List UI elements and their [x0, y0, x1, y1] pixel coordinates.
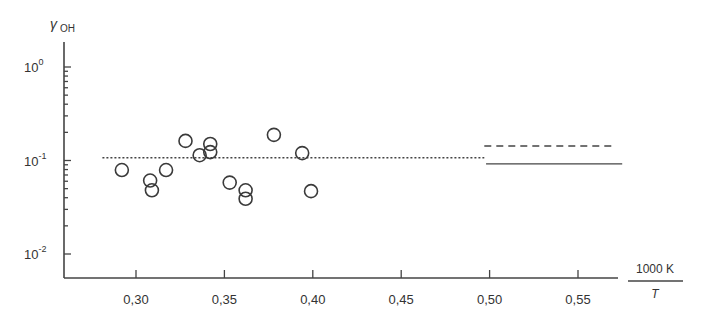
reference-lines — [102, 146, 622, 164]
data-point-circle — [179, 134, 192, 147]
y-tick-exponent: -1 — [38, 151, 46, 161]
data-point-circle — [160, 164, 173, 177]
y-axis-label-main: γ — [50, 16, 58, 32]
x-tick-label: 0,50 — [477, 292, 502, 307]
data-point-circle — [305, 185, 318, 198]
data-point-circle — [296, 147, 309, 160]
data-point-circle — [145, 184, 158, 197]
y-tick-exponent: -2 — [38, 244, 46, 254]
chart-svg: γ OH 10010-110-2 0,300,350,400,450,500,5… — [0, 0, 704, 330]
y-tick-exponent: 0 — [38, 57, 43, 67]
x-tick-label: 0,40 — [300, 292, 325, 307]
data-point-circle — [267, 128, 280, 141]
x-tick-label: 0,55 — [565, 292, 590, 307]
data-point-circle — [223, 176, 236, 189]
x-axis-label-denominator: T — [651, 287, 660, 301]
x-axis-label-numerator: 1000 K — [636, 262, 674, 276]
y-tick-label: 100 — [24, 57, 43, 75]
chart-container: γ OH 10010-110-2 0,300,350,400,450,500,5… — [0, 0, 704, 330]
y-axis-label: γ OH — [50, 16, 75, 34]
x-axis-label: 1000 K T — [628, 262, 683, 301]
x-tick-label: 0,35 — [212, 292, 237, 307]
y-tick-label: 10-2 — [24, 244, 46, 262]
data-points — [115, 128, 317, 205]
x-ticks: 0,300,350,400,450,500,55 — [123, 270, 590, 307]
data-point-circle — [115, 164, 128, 177]
x-tick-label: 0,30 — [123, 292, 148, 307]
y-axis-label-sub: OH — [60, 23, 75, 34]
x-tick-label: 0,45 — [389, 292, 414, 307]
y-tick-label: 10-1 — [24, 151, 46, 169]
data-point-circle — [239, 192, 252, 205]
